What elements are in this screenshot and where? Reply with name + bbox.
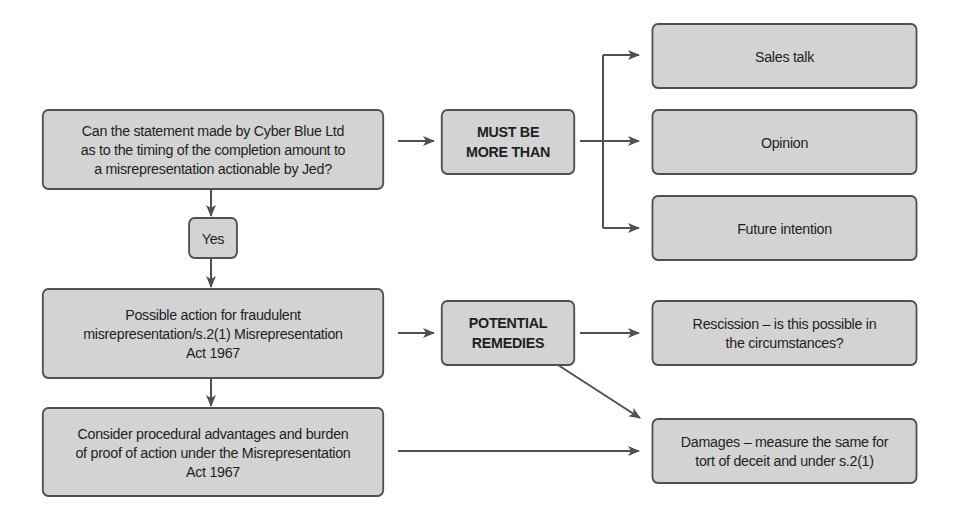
flowchart-canvas: Can the statement made by Cyber Blue Ltd… — [0, 0, 953, 522]
future-intention-box: Future intention — [652, 195, 918, 261]
consider-procedural-label: Consider procedural advantages and burde… — [75, 424, 350, 481]
rescission-box: Rescission – is this possible in the cir… — [652, 300, 918, 366]
damages-label: Damages – measure the same for tort of d… — [681, 432, 888, 470]
yes-label: Yes — [202, 229, 224, 248]
must-be-more-than-label: MUST BE MORE THAN — [466, 122, 550, 162]
possible-action-box: Possible action for fraudulent misrepres… — [42, 288, 384, 379]
potential-remedies-label: POTENTIAL REMEDIES — [469, 313, 547, 353]
sales-talk-label: Sales talk — [755, 47, 814, 66]
possible-action-label: Possible action for fraudulent misrepres… — [83, 305, 342, 362]
consider-procedural-box: Consider procedural advantages and burde… — [42, 407, 384, 497]
potential-remedies-box: POTENTIAL REMEDIES — [441, 300, 575, 366]
opinion-box: Opinion — [652, 109, 918, 175]
future-intention-label: Future intention — [737, 219, 832, 238]
opinion-label: Opinion — [761, 133, 808, 152]
arrow-remedies-to-damages — [558, 365, 640, 418]
sales-talk-box: Sales talk — [652, 23, 918, 89]
question-label: Can the statement made by Cyber Blue Ltd… — [81, 121, 346, 178]
yes-box: Yes — [188, 217, 238, 259]
damages-box: Damages – measure the same for tort of d… — [652, 418, 918, 484]
question-box: Can the statement made by Cyber Blue Ltd… — [42, 109, 384, 190]
rescission-label: Rescission – is this possible in the cir… — [693, 314, 877, 352]
must-be-more-than-box: MUST BE MORE THAN — [441, 109, 575, 175]
